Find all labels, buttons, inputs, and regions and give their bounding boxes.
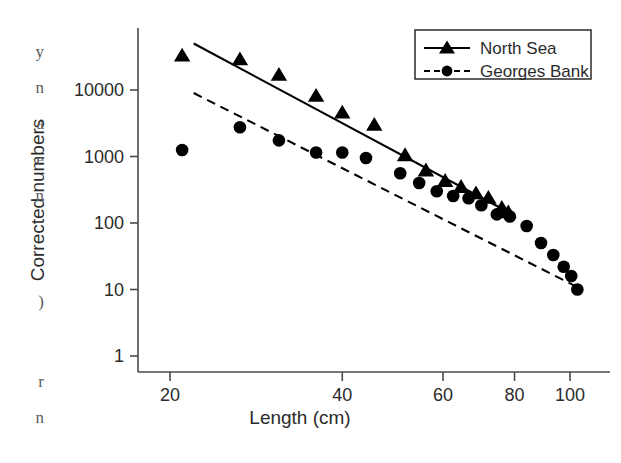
data-point-circle [565, 270, 578, 283]
legend-label-georges-bank: Georges Bank [480, 62, 589, 81]
data-point-circle [413, 177, 426, 190]
data-point-circle [273, 134, 286, 147]
y-tick-label-1000: 1000 [84, 147, 124, 167]
data-point-triangle [174, 48, 190, 62]
data-point-circle [462, 192, 475, 205]
data-point-circle [447, 190, 460, 203]
log-log-scatter-plot: 110100100010000 20406080100 Corrected nu… [0, 0, 621, 463]
x-axis-tick-labels: 20406080100 [160, 385, 585, 405]
data-point-circle [475, 199, 488, 212]
data-point-triangle [334, 105, 350, 119]
x-axis-ticks [170, 372, 570, 381]
y-tick-label-100: 100 [94, 213, 124, 233]
data-point-triangle [232, 51, 248, 65]
x-tick-label-40: 40 [332, 385, 352, 405]
data-point-circle [571, 283, 584, 296]
legend-label-north-sea: North Sea [480, 39, 557, 58]
fit-line-georges-bank [194, 93, 582, 289]
x-tick-label-100: 100 [555, 385, 585, 405]
data-point-circle [520, 220, 533, 233]
data-point-triangle [271, 67, 287, 81]
data-point-circle [234, 121, 247, 134]
x-axis-title: Length (cm) [249, 407, 350, 428]
series-georges-bank [176, 121, 584, 296]
data-point-triangle [308, 88, 324, 102]
data-point-circle [336, 146, 349, 159]
y-axis-title: Corrected numbers [27, 119, 48, 282]
data-point-triangle [366, 117, 382, 131]
data-point-circle [535, 237, 548, 250]
data-point-circle [547, 249, 560, 262]
figure-container: y n a e n ) r n 110100100010000 20406080… [0, 0, 621, 463]
y-tick-label-10000: 10000 [74, 80, 124, 100]
y-tick-label-1: 1 [114, 346, 124, 366]
legend-marker-circle [442, 66, 453, 77]
data-point-circle [394, 167, 407, 180]
data-point-circle [430, 185, 443, 198]
x-tick-label-80: 80 [505, 385, 525, 405]
legend[interactable]: North SeaGeorges Bank [415, 30, 591, 81]
y-tick-label-10: 10 [104, 280, 124, 300]
data-point-circle [176, 144, 189, 157]
data-point-circle [491, 208, 504, 221]
data-point-circle [504, 210, 517, 223]
x-tick-label-20: 20 [160, 385, 180, 405]
y-axis-tick-labels: 110100100010000 [74, 80, 124, 366]
data-point-circle [310, 146, 323, 159]
data-point-circle [360, 152, 373, 165]
y-axis-ticks [130, 90, 138, 356]
x-tick-label-60: 60 [433, 385, 453, 405]
